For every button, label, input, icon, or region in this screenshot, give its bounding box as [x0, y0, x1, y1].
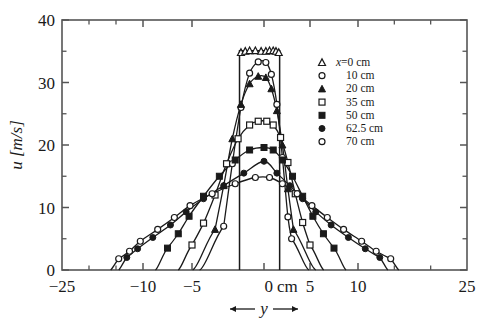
- data-point-marker: [171, 215, 177, 221]
- y-tick-label: 40: [38, 11, 55, 30]
- data-point-marker: [261, 158, 267, 164]
- data-point-marker: [124, 255, 130, 261]
- data-point-marker: [221, 183, 227, 189]
- data-point-marker: [313, 209, 319, 215]
- data-point-marker: [289, 236, 295, 242]
- data-point-marker: [319, 112, 325, 118]
- data-point-marker: [320, 231, 326, 237]
- y-tick-label: 20: [38, 136, 55, 155]
- jet-velocity-profile-figure: 010203040 −25−10−50cm51025 u [m/s]y x=0 …: [0, 0, 498, 330]
- x-tick-label: −25: [49, 277, 76, 296]
- x-tick-label: −5: [183, 277, 201, 296]
- data-point-marker: [201, 196, 207, 202]
- y-tick-label: 30: [38, 74, 55, 93]
- legend-entry-label: 70 cm: [346, 135, 374, 147]
- data-point-marker: [232, 157, 238, 163]
- data-point-marker: [278, 135, 284, 141]
- svg-text:5: 5: [306, 277, 315, 296]
- data-point-marker: [221, 223, 227, 229]
- data-point-marker: [300, 220, 306, 226]
- data-point-marker: [270, 122, 276, 128]
- data-point-marker: [165, 245, 171, 251]
- data-point-marker: [224, 161, 230, 167]
- data-point-marker: [359, 238, 365, 244]
- svg-text:25: 25: [459, 277, 476, 296]
- data-point-marker: [189, 242, 195, 248]
- svg-text:−10: −10: [130, 277, 157, 296]
- data-point-marker: [345, 235, 351, 241]
- data-point-marker: [201, 220, 207, 226]
- data-point-marker: [175, 231, 181, 237]
- data-point-marker: [263, 60, 269, 66]
- legend-entry-label: 20 cm: [346, 82, 374, 94]
- x-tick-label: 5: [306, 277, 315, 296]
- data-point-marker: [241, 170, 247, 176]
- x-tick-label: 25: [459, 277, 476, 296]
- svg-text:−25: −25: [49, 277, 76, 296]
- data-point-marker: [252, 175, 258, 181]
- data-point-marker: [319, 139, 325, 145]
- y-tick-label: 10: [38, 199, 55, 218]
- data-point-marker: [331, 245, 337, 251]
- legend-entry-label: 35 cm: [346, 96, 374, 108]
- data-point-marker: [232, 181, 238, 187]
- x-axis-title: y: [258, 299, 268, 318]
- data-point-marker: [300, 196, 306, 202]
- data-point-marker: [264, 118, 270, 124]
- data-point-marker: [135, 246, 141, 252]
- data-point-marker: [216, 173, 222, 179]
- data-point-marker: [319, 73, 325, 79]
- data-point-marker: [328, 222, 334, 228]
- data-point-marker: [261, 145, 267, 151]
- data-point-marker: [324, 215, 330, 221]
- data-point-marker: [137, 238, 143, 244]
- data-point-marker: [116, 256, 122, 262]
- data-point-marker: [267, 175, 273, 181]
- data-point-marker: [187, 203, 193, 209]
- data-point-marker: [255, 118, 261, 124]
- data-point-marker: [235, 136, 241, 142]
- y-axis-title: u [m/s]: [7, 120, 26, 170]
- legend-entry-label: 50 cm: [346, 109, 374, 121]
- legend-entry-label: 62.5 cm: [346, 122, 383, 134]
- data-point-marker: [373, 248, 379, 254]
- data-point-marker: [388, 256, 394, 262]
- data-point-marker: [341, 226, 347, 232]
- data-point-marker: [309, 203, 315, 209]
- x-tick-label: 10: [350, 277, 367, 296]
- data-point-marker: [287, 183, 293, 189]
- data-point-marker: [377, 255, 383, 261]
- data-point-marker: [319, 126, 325, 132]
- x-zero-unit: cm: [277, 277, 298, 296]
- x-tick-label: −10: [130, 277, 157, 296]
- chart-svg: 010203040 −25−10−50cm51025 u [m/s]y x=0 …: [0, 0, 498, 330]
- svg-text:0: 0: [265, 277, 274, 296]
- svg-text:10: 10: [350, 277, 367, 296]
- data-point-marker: [247, 122, 253, 128]
- data-point-marker: [247, 147, 253, 153]
- data-point-marker: [255, 59, 261, 65]
- data-point-marker: [183, 209, 189, 215]
- svg-text:−5: −5: [183, 277, 201, 296]
- data-point-marker: [167, 222, 173, 228]
- data-point-marker: [268, 71, 274, 77]
- data-point-marker: [362, 246, 368, 252]
- data-point-marker: [279, 181, 285, 187]
- data-point-marker: [209, 191, 215, 197]
- data-point-marker: [307, 242, 313, 248]
- data-point-marker: [155, 226, 161, 232]
- data-point-marker: [285, 214, 291, 220]
- data-point-marker: [127, 248, 133, 254]
- data-point-marker: [274, 170, 280, 176]
- data-point-marker: [150, 235, 156, 241]
- data-point-marker: [279, 157, 285, 163]
- data-point-marker: [294, 191, 300, 197]
- data-point-marker: [270, 147, 276, 153]
- data-point-marker: [247, 70, 253, 76]
- legend-entry-label: x=0 cm: [335, 56, 370, 68]
- data-point-marker: [290, 173, 296, 179]
- data-point-marker: [319, 99, 325, 105]
- x-tick-label: 0cm: [265, 277, 298, 296]
- legend-entry-label: 10 cm: [346, 69, 374, 81]
